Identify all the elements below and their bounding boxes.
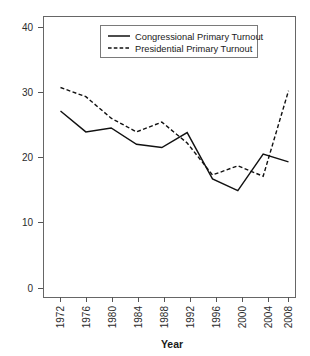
- line-chart: 0 10 20 30 40 1972 1976 1980 1984 1988 1…: [0, 0, 310, 356]
- x-axis: 1972 1976 1980 1984 1988 1992 1996 2000 …: [55, 297, 294, 328]
- x-tick-label-1976: 1976: [81, 306, 92, 329]
- legend-label-presidential: Presidential Primary Turnout: [135, 44, 253, 54]
- chart-figure: 0 10 20 30 40 1972 1976 1980 1984 1988 1…: [0, 0, 310, 356]
- y-axis: 0 10 20 30 40: [22, 22, 43, 294]
- x-axis-title: Year: [161, 338, 183, 350]
- x-tick-label-1984: 1984: [133, 306, 144, 329]
- series-line-congressional-primary-turnout: [61, 111, 289, 191]
- legend-label-congressional: Congressional Primary Turnout: [135, 32, 264, 42]
- y-tick-label-40: 40: [22, 22, 34, 33]
- y-tick-label-0: 0: [27, 283, 33, 294]
- x-tick-label-1972: 1972: [55, 306, 66, 329]
- x-tick-label-2000: 2000: [237, 306, 248, 329]
- x-tick-label-1980: 1980: [107, 306, 118, 329]
- y-tick-label-20: 20: [22, 152, 34, 163]
- x-tick-label-1992: 1992: [185, 306, 196, 329]
- chart-legend: Congressional Primary Turnout Presidenti…: [101, 26, 264, 58]
- y-tick-label-30: 30: [22, 87, 34, 98]
- series-line-presidential-primary-turnout: [61, 88, 289, 177]
- x-tick-label-2004: 2004: [263, 306, 274, 329]
- y-tick-label-10: 10: [22, 217, 34, 228]
- plot-frame: [44, 17, 296, 298]
- x-tick-label-1988: 1988: [159, 306, 170, 329]
- x-tick-label-1996: 1996: [211, 306, 222, 329]
- x-tick-label-2008: 2008: [283, 306, 294, 329]
